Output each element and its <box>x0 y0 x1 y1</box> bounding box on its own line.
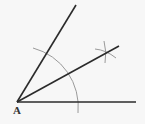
upper-ray <box>17 5 76 102</box>
diagram-frame: A <box>0 0 145 124</box>
intersection-arcs <box>95 41 116 63</box>
bisector-ray <box>17 46 119 102</box>
vertex-label: A <box>13 105 21 116</box>
angle-bisector-diagram <box>0 0 145 124</box>
